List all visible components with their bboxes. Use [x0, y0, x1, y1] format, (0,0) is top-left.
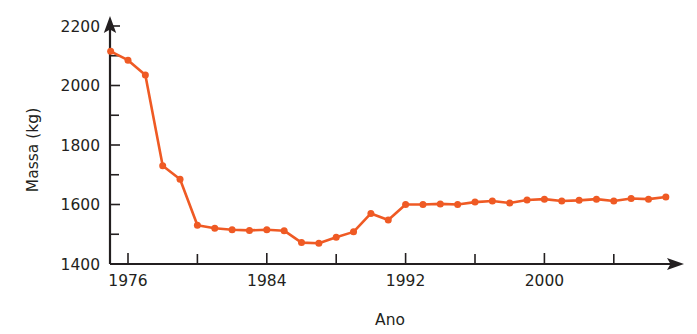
data-point [350, 228, 357, 235]
axes [104, 16, 684, 270]
data-point [385, 216, 392, 223]
x-tick-label: 1984 [247, 272, 286, 290]
data-point [419, 201, 426, 208]
data-point [593, 196, 600, 203]
data-point [246, 227, 253, 234]
data-point [142, 72, 149, 79]
x-tick-label: 1976 [108, 272, 147, 290]
data-point [610, 197, 617, 204]
data-point [454, 201, 461, 208]
x-axis-ticks [128, 253, 614, 264]
data-point [367, 210, 374, 217]
data-point [489, 197, 496, 204]
data-point [177, 176, 184, 183]
data-point [333, 234, 340, 241]
data-point [524, 197, 531, 204]
y-axis-tick-labels: 14001600180020002200 [61, 18, 100, 274]
data-point [645, 196, 652, 203]
x-axis-tick-labels: 1976198419922000 [108, 272, 564, 290]
data-point [263, 226, 270, 233]
data-series-group [107, 48, 669, 247]
x-tick-label: 1992 [386, 272, 425, 290]
y-tick-label: 1400 [61, 256, 100, 274]
data-point [628, 195, 635, 202]
y-tick-label: 1800 [61, 137, 100, 155]
data-point [194, 222, 201, 229]
chart-figure: Massa (kg) Ano 14001600180020002200 1976… [0, 0, 697, 334]
y-tick-label: 2200 [61, 18, 100, 36]
x-axis-title: Ano [375, 311, 405, 329]
data-point [159, 162, 166, 169]
mass-vs-year-line-chart: Massa (kg) Ano 14001600180020002200 1976… [0, 0, 697, 334]
y-tick-label: 2000 [61, 77, 100, 95]
data-point [281, 227, 288, 234]
y-tick-label: 1600 [61, 196, 100, 214]
data-point [472, 199, 479, 206]
y-axis-ticks [110, 26, 120, 264]
x-tick-label: 2000 [525, 272, 564, 290]
data-point [211, 225, 218, 232]
data-point [576, 197, 583, 204]
y-axis-title: Massa (kg) [24, 108, 42, 192]
series-line-massa [111, 51, 666, 243]
data-point [541, 196, 548, 203]
data-point [315, 240, 322, 247]
data-point [402, 201, 409, 208]
data-point [298, 239, 305, 246]
data-point [437, 200, 444, 207]
data-point [229, 226, 236, 233]
data-point [125, 57, 132, 64]
data-point [107, 48, 114, 55]
data-point [558, 197, 565, 204]
data-point [506, 200, 513, 207]
data-point [662, 194, 669, 201]
